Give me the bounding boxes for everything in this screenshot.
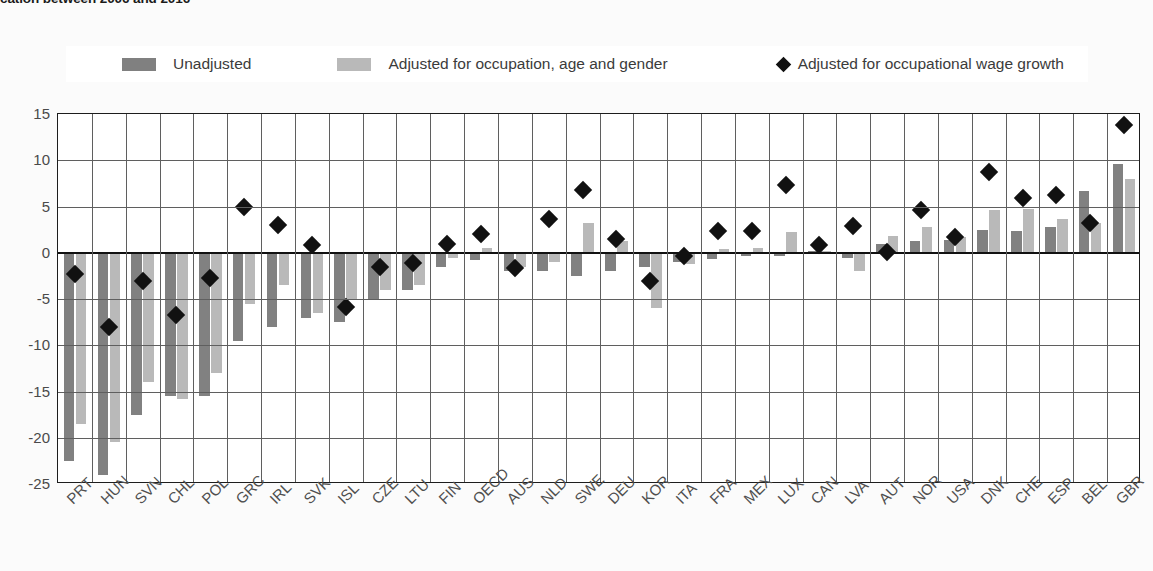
gridline-horizontal [58, 345, 1139, 346]
bar-lux-adjusted [786, 232, 797, 252]
bar-lva-adjusted [854, 253, 865, 272]
bar-esp-adjusted [1057, 219, 1068, 252]
legend-label: Unadjusted [173, 55, 251, 73]
gridline-horizontal [58, 299, 1139, 300]
diamond-marker-oecd [472, 225, 490, 243]
diamond-marker-dnk [980, 163, 998, 181]
bar-irl-unadjusted [267, 253, 278, 327]
diamond-marker-icon [775, 56, 791, 72]
gridline-vertical [600, 114, 601, 482]
diamond-marker-nld [540, 209, 558, 227]
bar-chl-adjusted [177, 253, 188, 399]
gridline-vertical [1107, 114, 1108, 482]
plot-area [57, 113, 1140, 483]
y-axis-tick-label: 15 [4, 105, 50, 122]
y-axis-tick-label: -20 [4, 428, 50, 445]
bar-kor-unadjusted [639, 253, 650, 267]
diamond-marker-lux [776, 176, 794, 194]
gridline-vertical [1073, 114, 1074, 482]
bar-irl-adjusted [279, 253, 290, 285]
legend-label: Adjusted for occupation, age and gender [388, 55, 667, 73]
bar-gbr-adjusted [1125, 179, 1136, 253]
y-axis-tick-label: -5 [4, 290, 50, 307]
gridline-vertical [836, 114, 837, 482]
legend-label: Adjusted for occupational wage growth [798, 55, 1064, 73]
bar-nld-adjusted [549, 253, 560, 262]
gridline-vertical [769, 114, 770, 482]
bar-prt-unadjusted [64, 253, 75, 461]
bar-fin-unadjusted [436, 253, 447, 267]
gridline-vertical [92, 114, 93, 482]
chart-page: cation between 2006 and 2016 Unadjusted … [0, 0, 1153, 571]
gridline-horizontal [58, 438, 1139, 439]
y-axis-tick-label: 0 [4, 243, 50, 260]
diamond-marker-nor [912, 201, 930, 219]
legend-item-adjusted-occupation: Adjusted for occupation, age and gender [337, 55, 667, 73]
gridline-vertical [430, 114, 431, 482]
gridline-vertical [464, 114, 465, 482]
legend-swatch-icon [337, 58, 371, 71]
gridline-horizontal [58, 160, 1139, 161]
bar-esp-unadjusted [1045, 227, 1056, 253]
diamond-marker-mex [743, 222, 761, 240]
gridline-vertical [227, 114, 228, 482]
x-axis-labels: PRTHUNSVNCHLPOLGRCIRLSVKISLCZELTUFINOECD… [57, 487, 1140, 567]
gridline-vertical [1039, 114, 1040, 482]
gridline-vertical [363, 114, 364, 482]
diamond-marker-swe [573, 181, 591, 199]
gridline-vertical [532, 114, 533, 482]
bar-svn-adjusted [143, 253, 154, 383]
diamond-marker-lva [844, 217, 862, 235]
bar-swe-adjusted [583, 223, 594, 253]
bar-che-unadjusted [1011, 231, 1022, 252]
bar-hun-unadjusted [98, 253, 109, 475]
legend-item-unadjusted: Unadjusted [122, 55, 251, 73]
diamond-marker-che [1013, 189, 1031, 207]
legend-item-adjusted-wage-growth: Adjusted for occupational wage growth [778, 55, 1064, 73]
bar-nld-unadjusted [537, 253, 548, 272]
page-title: cation between 2006 and 2016 [0, 0, 700, 9]
bar-deu-unadjusted [605, 253, 616, 272]
gridline-vertical [870, 114, 871, 482]
y-axis-tick-label: -25 [4, 475, 50, 492]
gridline-vertical [667, 114, 668, 482]
bar-grc-adjusted [245, 253, 256, 304]
gridline-horizontal [58, 207, 1139, 208]
bar-swe-unadjusted [571, 253, 582, 276]
bar-hun-adjusted [110, 253, 121, 443]
bar-dnk-unadjusted [977, 230, 988, 253]
bar-svk-adjusted [313, 253, 324, 313]
y-axis-tick-label: -10 [4, 336, 50, 353]
bar-nor-adjusted [922, 227, 933, 253]
bar-svk-unadjusted [301, 253, 312, 318]
chart-legend: Unadjusted Adjusted for occupation, age … [66, 46, 1088, 82]
gridline-vertical [193, 114, 194, 482]
gridline-vertical [566, 114, 567, 482]
bar-grc-unadjusted [233, 253, 244, 341]
diamond-marker-esp [1047, 186, 1065, 204]
gridline-vertical [904, 114, 905, 482]
gridline-vertical [633, 114, 634, 482]
gridline-vertical [938, 114, 939, 482]
bar-dnk-adjusted [989, 210, 1000, 253]
gridline-vertical [126, 114, 127, 482]
series-layer [58, 114, 1139, 482]
y-axis-tick-label: -15 [4, 382, 50, 399]
gridline-vertical [701, 114, 702, 482]
legend-swatch-icon [122, 58, 156, 71]
bar-gbr-unadjusted [1113, 164, 1124, 253]
gridline-vertical [160, 114, 161, 482]
gridline-vertical [261, 114, 262, 482]
gridline-horizontal [58, 392, 1139, 393]
gridline-vertical [329, 114, 330, 482]
gridline-vertical [803, 114, 804, 482]
gridline-vertical [1006, 114, 1007, 482]
bar-chl-unadjusted [165, 253, 176, 396]
diamond-marker-irl [269, 216, 287, 234]
gridline-vertical [735, 114, 736, 482]
gridline-vertical [396, 114, 397, 482]
x-axis-label-ita: ITA [672, 479, 700, 507]
gridline-vertical [972, 114, 973, 482]
y-axis: 151050-5-10-15-20-25 [0, 113, 50, 483]
diamond-marker-fra [709, 221, 727, 239]
